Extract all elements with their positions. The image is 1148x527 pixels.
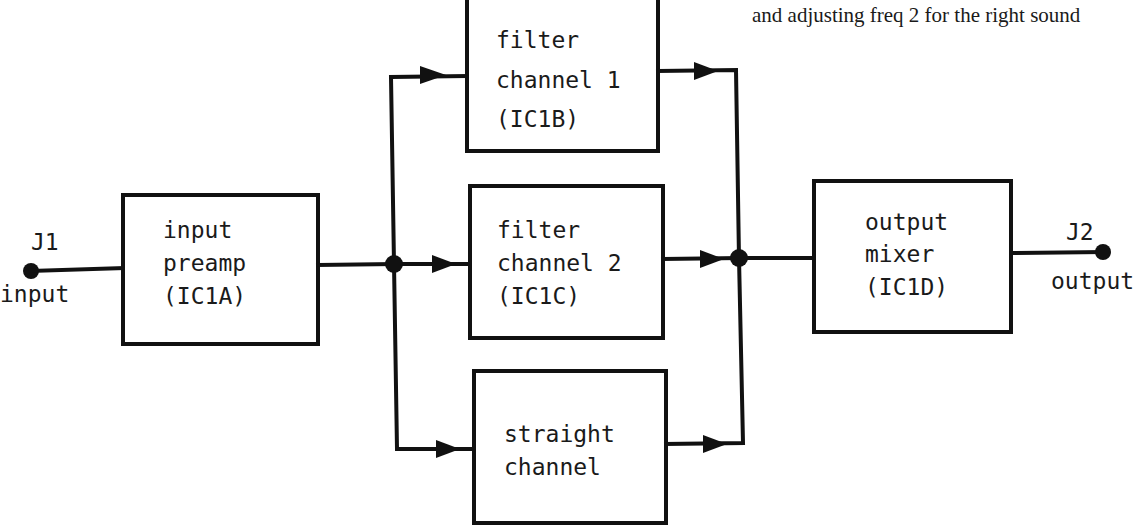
j1-sublabel: input: [0, 281, 69, 307]
filter2-line-2: channel 2: [497, 250, 622, 276]
filter2-line-1: filter: [497, 217, 580, 243]
filter1-line-2: channel 1: [496, 67, 621, 93]
preamp-block: input preamp (IC1A): [123, 195, 318, 344]
output-mixer-block: output mixer (IC1D): [814, 181, 1011, 332]
straight-channel-box: [474, 371, 666, 523]
straight-line-2: channel: [504, 454, 601, 480]
preamp-line-2: preamp: [163, 250, 246, 276]
mixer-line-3: (IC1D): [865, 274, 948, 300]
straight-line-1: straight: [504, 421, 615, 447]
filter1-line-1: filter: [496, 27, 579, 53]
straight-channel-block: straight channel: [474, 371, 666, 523]
wire-preamp-split: [318, 264, 394, 265]
filter-channel-2-block: filter channel 2 (IC1C): [470, 186, 663, 338]
j2-terminal-dot: [1095, 244, 1111, 260]
j1-label: J1: [31, 229, 59, 255]
j2-output-jack: J2 output: [1051, 219, 1134, 294]
caption-text: and adjusting freq 2 for the right sound: [752, 3, 1081, 27]
block-diagram: and adjusting freq 2 for the right sound…: [0, 0, 1148, 527]
split-junction-dot: [385, 255, 403, 273]
filter-channel-1-block: filter channel 1 (IC1B): [467, 0, 658, 151]
wire-j1-preamp: [31, 268, 123, 271]
filter1-line-3: (IC1B): [496, 106, 579, 132]
preamp-line-3: (IC1A): [163, 283, 246, 309]
arrow-to-straight-icon: [436, 440, 460, 458]
j2-sublabel: output: [1051, 268, 1134, 294]
arrow-from-straight-icon: [703, 435, 727, 453]
j2-label: J2: [1066, 219, 1094, 245]
arrow-to-filter1-icon: [420, 66, 446, 84]
wire-mixer-j2: [1011, 252, 1103, 253]
mixer-line-1: output: [865, 209, 948, 235]
arrow-from-filter1-icon: [694, 62, 718, 80]
j1-input-jack: J1 input: [0, 229, 69, 307]
arrow-from-filter2-icon: [700, 250, 724, 268]
arrow-to-filter2-icon: [432, 255, 456, 273]
filter2-line-3: (IC1C): [497, 283, 580, 309]
preamp-line-1: input: [163, 217, 232, 243]
mixer-line-2: mixer: [865, 241, 934, 267]
